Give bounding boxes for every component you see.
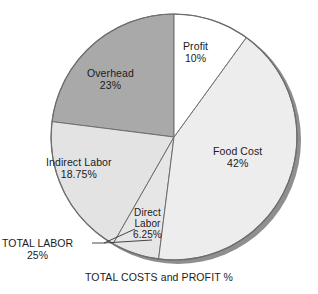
slice-label-indirect-labor-value: 18.75% bbox=[46, 169, 112, 181]
slice-label-profit-value: 10% bbox=[183, 53, 208, 65]
slice-label-indirect-labor-name: Indirect Labor bbox=[46, 157, 112, 169]
slice-label-food-cost-name: Food Cost bbox=[213, 146, 262, 158]
slice-label-food-cost-value: 42% bbox=[213, 158, 262, 170]
chart-caption: TOTAL COSTS and PROFIT % bbox=[0, 271, 318, 283]
slice-label-direct-labor-name1: Direct bbox=[133, 207, 162, 218]
slice-label-direct-labor-value: 6.25% bbox=[133, 229, 162, 240]
pie-chart-figure: Profit 10% Food Cost 42% Overhead 23% In… bbox=[0, 0, 318, 294]
slice-label-direct-labor-name2: Labor bbox=[133, 218, 162, 229]
annotation-total-labor-value: 25% bbox=[2, 249, 73, 261]
slice-label-profit: Profit 10% bbox=[183, 41, 208, 65]
slice-label-overhead-name: Overhead bbox=[87, 68, 134, 80]
slice-label-indirect-labor: Indirect Labor 18.75% bbox=[46, 157, 112, 181]
slice-label-overhead-value: 23% bbox=[87, 80, 134, 92]
slice-label-direct-labor: Direct Labor 6.25% bbox=[133, 207, 162, 241]
slice-label-food-cost: Food Cost 42% bbox=[213, 146, 262, 170]
slice-label-overhead: Overhead 23% bbox=[87, 68, 134, 92]
annotation-total-labor-name: TOTAL LABOR bbox=[2, 237, 73, 249]
annotation-total-labor: TOTAL LABOR 25% bbox=[2, 237, 73, 261]
slice-label-profit-name: Profit bbox=[183, 41, 208, 53]
